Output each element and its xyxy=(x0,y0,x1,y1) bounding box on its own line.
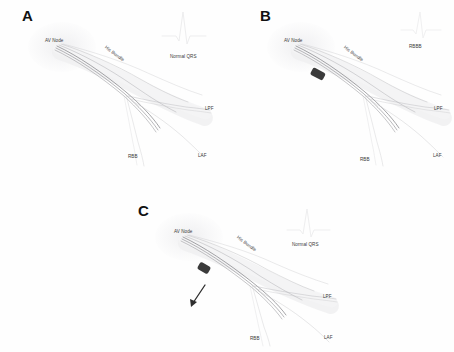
ecg-trace-c xyxy=(287,209,330,237)
figure-cardiac-conduction-system: A xyxy=(0,0,454,352)
label-av-node: AV Node xyxy=(45,39,63,44)
ecg-trace-a xyxy=(162,12,206,44)
label-av-node: AV Node xyxy=(284,39,302,44)
label-rbb: RBB xyxy=(128,155,138,160)
label-rbb: RBB xyxy=(360,158,370,163)
label-rbbb: RBBB xyxy=(409,45,422,50)
panel-a-conduction-svg xyxy=(0,0,227,185)
label-laf: LAF xyxy=(433,154,442,159)
label-av-node: AV Node xyxy=(174,230,192,235)
label-lpf: LPF xyxy=(323,295,332,300)
label-lpf: LPF xyxy=(205,107,214,112)
panel-c: C xyxy=(110,185,350,352)
panel-b: B AV Node His xyxy=(227,0,454,185)
panel-a: A xyxy=(0,0,227,185)
panel-c-conduction-svg xyxy=(110,185,350,352)
label-rbb: RBB xyxy=(250,337,260,342)
label-normal-qrs: Normal QRS xyxy=(170,55,197,60)
label-normal-qrs: Normal QRS xyxy=(292,243,319,248)
panel-b-conduction-svg xyxy=(227,0,454,185)
label-laf: LAF xyxy=(324,336,333,341)
pacing-lead-arrow xyxy=(190,285,205,307)
ecg-trace-b xyxy=(401,12,441,38)
label-laf: LAF xyxy=(198,154,207,159)
label-lpf: LPF xyxy=(434,107,443,112)
